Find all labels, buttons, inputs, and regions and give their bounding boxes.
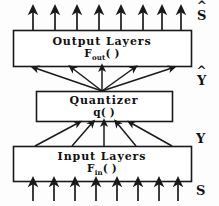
quantizer-to-output-arrows: [35, 68, 172, 91]
s-base: S: [196, 183, 205, 198]
output-layers-box: [14, 31, 192, 67]
diagram-canvas: Output Layers Fout( ) Quantizer q( ) Inp…: [0, 0, 219, 206]
signal-label-s: S: [196, 183, 205, 198]
input-layers-box: [14, 147, 192, 182]
y-hat-wrapper: ^ Y: [197, 73, 206, 88]
y-base: Y: [196, 131, 205, 146]
signal-label-y: Y: [196, 131, 205, 146]
s-hat-accent: ^: [197, 0, 207, 12]
diagram-vector-layer: [0, 0, 219, 206]
signal-label-y-hat: ^ Y: [197, 73, 206, 88]
signal-label-s-hat: ^ S: [197, 8, 206, 23]
y-hat-accent: ^: [197, 65, 207, 77]
input-to-quantizer-arrows: [35, 123, 172, 146]
quantizer-box: [37, 92, 173, 122]
s-hat-wrapper: ^ S: [197, 8, 206, 23]
input-arrows: [33, 182, 178, 201]
output-arrows: [33, 10, 181, 30]
